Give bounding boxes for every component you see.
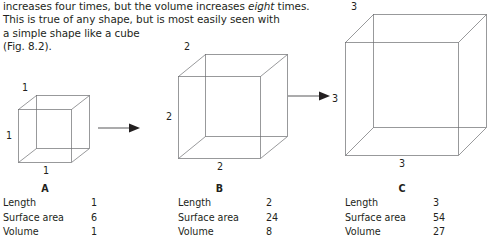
row-label: Surface area (178, 211, 266, 226)
row-value: 8 (266, 225, 278, 238)
row-label: Length (178, 196, 266, 211)
cube-c-letter: C (345, 183, 459, 194)
cube-a-left-label: 1 (6, 131, 12, 141)
row-value: 6 (91, 211, 97, 226)
cube-a-bottom-label: 1 (43, 166, 49, 176)
data-table-a: Length 1 Surface area 6 Volume 1 (3, 196, 97, 238)
cube-b-bottom-label: 2 (217, 162, 223, 172)
row-value: 54 (433, 211, 445, 226)
figure-8-2: 1 1 1 A 2 2 2 B (0, 0, 492, 238)
cube-c-group: 3 3 3 (345, 14, 487, 164)
table-row: Length 1 (3, 196, 97, 211)
table-row: Surface area 6 (3, 211, 97, 226)
table-row: Volume 27 (345, 225, 445, 238)
table-row: Volume 1 (3, 225, 97, 238)
arrow-b-to-c (288, 90, 332, 102)
cube-b-left-label: 2 (166, 112, 172, 122)
data-table-b: Length 2 Surface area 24 Volume 8 (178, 196, 278, 238)
row-value: 27 (433, 225, 445, 238)
cube-a-letter: A (18, 183, 72, 194)
cube-c-bottom-label: 3 (399, 159, 405, 169)
cube-a-group: 1 1 1 (18, 95, 90, 167)
cube-b-top-label: 2 (184, 42, 190, 52)
cube-b-wireframe (178, 54, 288, 164)
table-row: Volume 8 (178, 225, 278, 238)
cube-c-wireframe (345, 14, 487, 164)
row-value: 2 (266, 196, 278, 211)
row-label: Surface area (3, 211, 91, 226)
row-label: Surface area (345, 211, 433, 226)
cube-c-left-label: 3 (332, 94, 338, 104)
row-label: Length (3, 196, 91, 211)
row-label: Length (345, 196, 433, 211)
arrow-a-to-b (98, 122, 142, 134)
row-value: 3 (433, 196, 445, 211)
cube-b-letter: B (178, 183, 261, 194)
row-label: Volume (178, 225, 266, 238)
row-value: 1 (91, 225, 97, 238)
data-table-c: Length 3 Surface area 54 Volume 27 (345, 196, 445, 238)
table-row: Length 2 (178, 196, 278, 211)
table-row: Surface area 24 (178, 211, 278, 226)
row-label: Volume (345, 225, 433, 238)
cube-a-top-label: 1 (22, 83, 28, 93)
row-value: 24 (266, 211, 278, 226)
cube-c-top-label: 3 (351, 2, 357, 12)
row-value: 1 (91, 196, 97, 211)
cube-a-wireframe (18, 95, 90, 167)
table-row: Length 3 (345, 196, 445, 211)
table-row: Surface area 54 (345, 211, 445, 226)
cube-b-group: 2 2 2 (178, 54, 288, 164)
row-label: Volume (3, 225, 91, 238)
